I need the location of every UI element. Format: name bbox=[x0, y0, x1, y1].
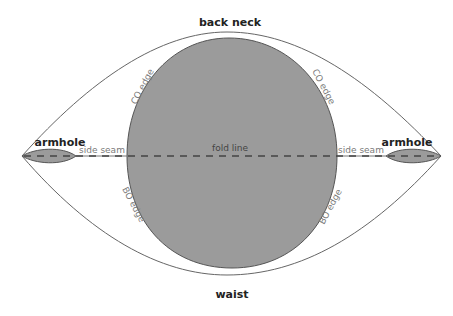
body-shape bbox=[127, 38, 337, 268]
side-seam-left-label: side seam bbox=[79, 145, 125, 155]
armhole-left-label: armhole bbox=[35, 136, 86, 149]
fold-line-label: fold line bbox=[212, 143, 248, 153]
waist-label: waist bbox=[215, 288, 248, 301]
armhole-right-label: armhole bbox=[382, 136, 433, 149]
side-seam-right-label: side seam bbox=[338, 145, 384, 155]
back-neck-label: back neck bbox=[199, 16, 262, 29]
garment-diagram: back neck waist armhole armhole side sea… bbox=[0, 0, 453, 316]
